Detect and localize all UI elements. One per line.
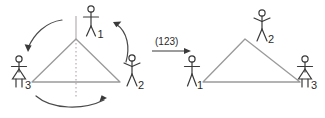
- figure-leg-right: [132, 74, 137, 86]
- vertex-label-bottom-right: 2: [138, 79, 144, 91]
- figure-arm-right: [132, 63, 140, 67]
- diagram-canvas: 1 3 2: [0, 0, 325, 118]
- figure-leg-right: [91, 26, 96, 36]
- figure-leg-left: [257, 29, 262, 41]
- figure-head: [16, 56, 22, 62]
- vertex-label-bottom-left: 3: [25, 79, 31, 91]
- figure-head: [189, 56, 195, 62]
- vertex-label-top: 1: [98, 28, 104, 40]
- transition-arrow: [152, 48, 191, 54]
- rotation-arrow-left: [25, 20, 62, 52]
- arrowhead: [113, 22, 121, 28]
- figure-head: [302, 56, 308, 62]
- figure-leg-left: [127, 74, 132, 86]
- figure-leg-left: [87, 26, 92, 36]
- figure-head: [129, 55, 135, 61]
- result-triangle: [203, 39, 300, 82]
- vertex-label-top: 2: [268, 33, 274, 45]
- permutation-figure: 1 3 2: [0, 0, 325, 118]
- operation-label: (123): [155, 36, 178, 47]
- rotation-arrow-bottom: [36, 95, 107, 107]
- arrowhead: [184, 48, 191, 54]
- figure-leg-right: [192, 74, 197, 86]
- vertex-label-bottom-right: 3: [311, 79, 317, 91]
- figure-arm-left: [254, 18, 262, 22]
- result-configuration: 2 1 3: [185, 10, 318, 91]
- stick-figure-top: [84, 6, 99, 36]
- figure-head: [88, 6, 94, 12]
- rotation-arrow-right: [113, 22, 128, 62]
- figure-head: [259, 10, 265, 16]
- arrowhead: [25, 44, 32, 52]
- figure-arm-right: [262, 18, 270, 22]
- figure-arm-left: [124, 63, 132, 67]
- figure-leg-right: [262, 29, 267, 41]
- figure-leg-left: [188, 74, 193, 86]
- vertex-label-bottom-left: 1: [197, 79, 203, 91]
- source-configuration: 1 3 2: [12, 6, 145, 107]
